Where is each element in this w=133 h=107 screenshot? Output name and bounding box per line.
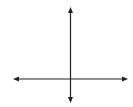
y-axis-up-arrow-icon (68, 7, 73, 13)
x-axis-left-arrow-icon (13, 77, 19, 82)
y-axis-down-arrow-icon (68, 97, 73, 103)
y-axis (68, 7, 73, 103)
graph-plot (0, 0, 133, 107)
x-axis-right-arrow-icon (122, 77, 128, 82)
